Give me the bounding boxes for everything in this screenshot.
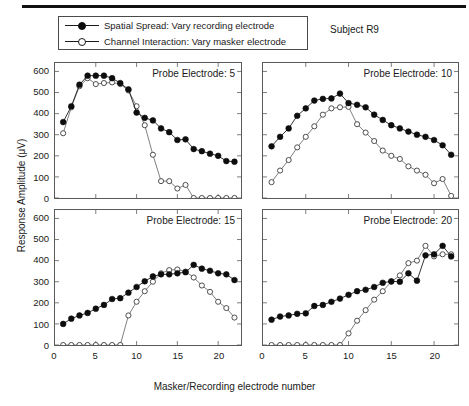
panel-probe-electrode-10: Probe Electrode: 10 [262,62,459,199]
x-tick-label: 10 [124,350,148,361]
y-tick-label: 100 [23,319,49,330]
x-tick-label: 0 [250,350,274,361]
y-tick-label: 400 [23,107,49,118]
top-rule [22,5,466,8]
plot-area-probe-20 [263,210,458,345]
panel-title-probe-5: Probe Electrode: 5 [152,68,235,79]
legend-label-channel-interaction: Channel Interaction: Vary masker electro… [104,37,286,47]
subject-label: Subject R9 [330,24,379,35]
plot-area-probe-5 [55,63,241,198]
panel-title-probe-15: Probe Electrode: 15 [147,215,235,226]
panel-probe-electrode-15: Probe Electrode: 15 [54,209,242,346]
x-tick-label: 0 [42,350,66,361]
x-axis-label: Masker/Recording electrode number [0,381,469,392]
y-tick-label: 300 [23,129,49,140]
y-tick-label: 600 [23,212,49,223]
panel-probe-electrode-5: Probe Electrode: 5 [54,62,242,199]
open-circle-marker-icon [65,36,99,48]
legend-item-spatial-spread: Spatial Spread: Vary recording electrode [65,17,274,34]
y-tick-label: 400 [23,254,49,265]
plot-area-probe-10 [263,63,458,198]
x-tick-label: 20 [207,350,231,361]
x-tick-label: 15 [380,350,404,361]
x-tick-label: 5 [293,350,317,361]
plot-area-probe-15 [55,210,241,345]
x-tick-label: 15 [166,350,190,361]
y-tick-label: 500 [23,86,49,97]
legend-label-spatial-spread: Spatial Spread: Vary recording electrode [104,21,274,31]
legend-item-channel-interaction: Channel Interaction: Vary masker electro… [65,33,286,50]
filled-circle-marker-icon [65,20,99,32]
panel-title-probe-10: Probe Electrode: 10 [364,68,452,79]
y-tick-label: 0 [23,193,49,204]
y-tick-label: 200 [23,297,49,308]
y-tick-label: 100 [23,172,49,183]
y-tick-label: 600 [23,65,49,76]
x-tick-label: 5 [83,350,107,361]
panel-probe-electrode-20: Probe Electrode: 20 [262,209,459,346]
y-tick-label: 300 [23,276,49,287]
legend: Spatial Spread: Vary recording electrode… [58,16,308,50]
x-tick-label: 10 [336,350,360,361]
y-tick-label: 200 [23,150,49,161]
x-tick-label: 20 [423,350,447,361]
y-tick-label: 500 [23,233,49,244]
figure-root: Spatial Spread: Vary recording electrode… [0,0,469,406]
panel-title-probe-20: Probe Electrode: 20 [364,215,452,226]
